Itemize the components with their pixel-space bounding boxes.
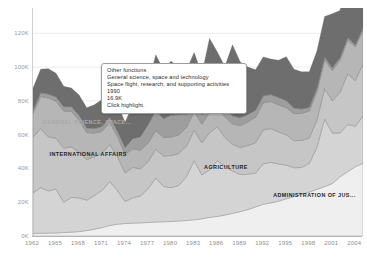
y-axis-tick-label: 120K	[14, 30, 29, 36]
y-axis: 0K20K40K60K80K100K120K	[0, 8, 32, 236]
x-axis-tick-label: 1986	[209, 240, 223, 246]
x-axis-tick-label: 1965	[48, 240, 62, 246]
x-axis-tick-label: 1968	[71, 240, 85, 246]
y-axis-tick-label: 0K	[21, 233, 29, 239]
chart-tooltip: Other functionsGeneral science, space an…	[101, 63, 247, 114]
y-axis-tick-label: 20K	[18, 199, 29, 205]
x-axis-tick-label: 1992	[255, 240, 269, 246]
x-axis-tick-label: 1995	[278, 240, 292, 246]
tooltip-line-4: 1990	[107, 88, 242, 95]
y-axis-tick-label: 60K	[18, 132, 29, 138]
x-axis-tick-label: 1980	[163, 240, 177, 246]
tooltip-line-2: General science, space and technology	[107, 74, 242, 81]
x-axis: 1962196519681971197419771980198319861989…	[32, 240, 362, 254]
y-axis-tick-label: 80K	[18, 98, 29, 104]
x-axis-tick-label: 1974	[117, 240, 131, 246]
tooltip-line-5: 16.9K	[107, 95, 242, 102]
x-axis-tick-label: 1962	[25, 240, 39, 246]
tooltip-line-1: Other functions	[107, 67, 242, 74]
y-axis-tick-label: 100K	[14, 64, 29, 70]
x-axis-tick-label: 1989	[232, 240, 246, 246]
stacked-area-chart[interactable]	[33, 8, 363, 236]
x-axis-tick-label: 1998	[301, 240, 315, 246]
x-axis-tick-label: 2004	[347, 240, 361, 246]
x-axis-tick-label: 1983	[186, 240, 200, 246]
x-axis-tick-label: 1971	[94, 240, 108, 246]
plot-area[interactable]: GENERA...GENERAL SCIENCE, SPACE...INTERN…	[32, 8, 362, 236]
x-axis-tick-label: 2001	[324, 240, 338, 246]
x-axis-line	[32, 236, 362, 237]
chart-application: 0K20K40K60K80K100K120K GENERA...GENERAL …	[0, 0, 367, 262]
y-axis-tick-label: 40K	[18, 165, 29, 171]
x-axis-tick-label: 1977	[140, 240, 154, 246]
tooltip-line-3: Space flight, research, and supporting a…	[107, 81, 242, 88]
tooltip-line-6: Click highlight.	[107, 102, 242, 109]
